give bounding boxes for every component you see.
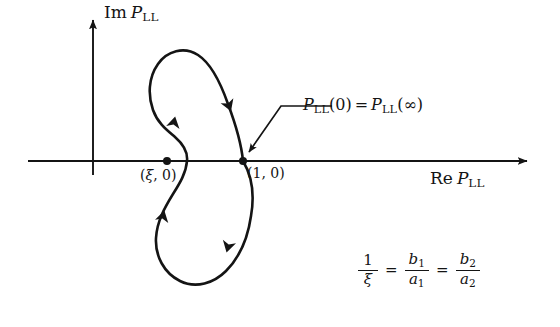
im-axis-symbol: P	[127, 2, 142, 22]
formula-mid-num-sub: 1	[418, 257, 425, 269]
formula-mid-den-sym: a	[409, 270, 418, 288]
im-axis-rm: Im	[104, 2, 127, 22]
fraction-b2-over-a2: b2 a2	[456, 252, 481, 289]
callout-arg-1: (0)	[329, 95, 352, 114]
xi-relation-formula: 1 ξ = b1 a1 = b2 a2	[358, 252, 480, 289]
formula-mid-num-sym: b	[409, 250, 419, 268]
arrow-bottom-right-down	[220, 240, 236, 254]
im-axis-subscript: LL	[142, 10, 158, 24]
one-zero-point-dot	[239, 157, 247, 165]
fraction-one-over-xi: 1 ξ	[358, 253, 378, 288]
re-axis-symbol: P	[453, 168, 468, 188]
formula-rhs-num-sub: 2	[469, 257, 476, 269]
callout-symbol-2: P	[371, 95, 382, 114]
callout-subscript-2: LL	[382, 103, 397, 116]
formula-rhs-den-sub: 2	[469, 277, 476, 289]
real-axis-label: RePLL	[430, 170, 485, 190]
formula-lhs-denominator: ξ	[360, 271, 376, 288]
callout-subscript-1: LL	[314, 103, 329, 116]
callout-annotation-text: PLL(0)=PLL(∞)	[303, 97, 423, 115]
nyquist-figure: ImPLL RePLL (ξ, 0) (1, 0) PLL(0)=PLL(∞) …	[0, 0, 560, 327]
re-axis-subscript: LL	[468, 176, 484, 190]
imaginary-axis-label: ImPLL	[104, 4, 159, 24]
xi-label-rest: , 0)	[153, 167, 176, 183]
fraction-b1-over-a1: b1 a1	[405, 252, 430, 289]
arrow-upper-right	[221, 98, 238, 113]
re-axis-rm: Re	[430, 168, 453, 188]
one-zero-point-label: (1, 0)	[247, 166, 285, 180]
xi-point-dot	[163, 157, 171, 165]
formula-rhs-numerator: b2	[456, 252, 481, 270]
formula-equals-1: =	[385, 263, 398, 278]
formula-equals-2: =	[436, 263, 449, 278]
xi-point-label: (ξ, 0)	[140, 168, 176, 182]
formula-lhs-numerator: 1	[359, 253, 377, 270]
callout-equals: =	[352, 95, 371, 114]
formula-rhs-denominator: a2	[456, 271, 480, 289]
arrow-left-up	[166, 115, 182, 129]
one-label-rest: , 0)	[261, 165, 284, 181]
formula-mid-numerator: b1	[405, 252, 430, 270]
formula-rhs-num-sym: b	[460, 250, 470, 268]
callout-symbol-1: P	[303, 95, 314, 114]
formula-mid-denominator: a1	[405, 271, 429, 289]
formula-mid-den-sub: 1	[418, 277, 425, 289]
callout-arg-2: (∞)	[397, 95, 423, 114]
formula-rhs-den-sym: a	[460, 270, 469, 288]
